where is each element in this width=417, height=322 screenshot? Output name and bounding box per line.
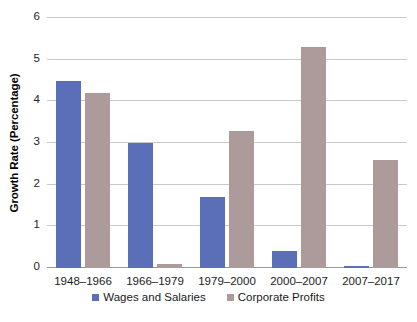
y-axis-tick-label: 4 [34,95,40,107]
bar-group [335,18,407,268]
bar-group [263,18,335,268]
x-axis-tick-label: 1948–1966 [54,276,112,288]
bar [56,81,81,269]
bar [301,47,326,268]
y-axis-tick-label: 0 [34,261,40,273]
legend-swatch-icon [227,294,234,301]
bar [229,131,254,269]
legend-item: Wages and Salaries [92,292,206,304]
bar-chart: Growth Rate (Percentage) 0123456 1948–19… [0,0,417,322]
bar-group [119,18,191,268]
bar [128,143,153,268]
x-axis-tick-label: 2007–2017 [342,276,400,288]
legend-swatch-icon [92,294,99,301]
y-axis-tick-label: 6 [34,11,40,23]
y-axis-tick-label: 3 [34,136,40,148]
y-axis-tick-label: 5 [34,53,40,65]
x-axis-tick-label: 1966–1979 [126,276,184,288]
bar [85,93,110,268]
bar [373,160,398,268]
plot-area: 0123456 1948–19661966–19791979–20002000–… [47,18,407,268]
bars-layer [47,18,407,268]
x-axis-tick-label: 2000–2007 [270,276,328,288]
legend-label: Corporate Profits [238,292,325,304]
chart-legend: Wages and SalariesCorporate Profits [0,292,417,304]
y-axis-title: Growth Rate (Percentage) [4,2,24,284]
x-axis-tick-label: 1979–2000 [198,276,256,288]
bar [272,251,297,268]
bar-group [47,18,119,268]
bar [200,197,225,268]
y-axis-tick-label: 2 [34,178,40,190]
bar [344,266,369,268]
legend-item: Corporate Profits [227,292,325,304]
y-axis-tick-label: 1 [34,220,40,232]
bar-group [191,18,263,268]
legend-label: Wages and Salaries [103,292,206,304]
bar [157,264,182,268]
